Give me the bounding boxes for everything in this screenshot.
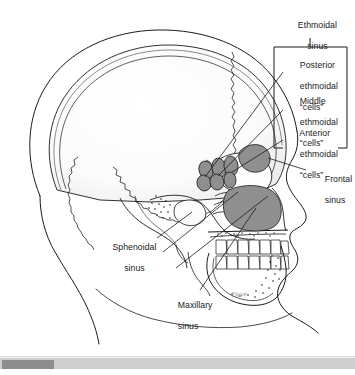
label-maxillary-sinus-line1: Maxillary: [178, 300, 213, 310]
label-sphenoidal-sinus: Sphenoidal sinus: [97, 232, 157, 284]
upper-teeth-row: [216, 240, 289, 254]
illustrator-signature: Dave: [232, 290, 247, 299]
label-frontal-sinus-line2: sinus: [325, 195, 346, 205]
label-maxillary-sinus-line2: sinus: [178, 321, 199, 331]
label-maxillary-sinus: Maxillary sinus: [163, 290, 219, 342]
label-posterior-ethmoidal-cells-line1: Posterior: [300, 60, 335, 70]
label-frontal-sinus-line1: Frontal: [325, 174, 352, 184]
label-sphenoidal-sinus-line1: Sphenoidal: [112, 242, 156, 252]
label-sphenoidal-sinus-line2: sinus: [124, 263, 145, 273]
label-anterior-ethmoidal-cells-line1: Anterior: [299, 128, 330, 138]
label-frontal-sinus: Frontal sinus: [310, 164, 355, 216]
label-ethmoidal-sinus-line1: Ethmoidal: [298, 20, 337, 30]
anatomical-figure: Dave Ethmoidal sinus Posterior ethmoidal…: [0, 0, 355, 352]
occiput-neck-outline: [40, 196, 99, 344]
horizontal-scrollbar[interactable]: [0, 356, 355, 370]
screenshot-viewport: Dave Ethmoidal sinus Posterior ethmoidal…: [0, 0, 355, 375]
scrollbar-thumb[interactable]: [2, 360, 54, 369]
label-anterior-ethmoidal-cells-line2: ethmoidal: [300, 149, 338, 159]
scrollbar-track[interactable]: [0, 358, 355, 369]
frontal-sinus-cavity: [239, 145, 270, 173]
page-bottom-margin: [0, 369, 355, 375]
label-middle-ethmoidal-cells-line1: Middle: [300, 96, 326, 106]
